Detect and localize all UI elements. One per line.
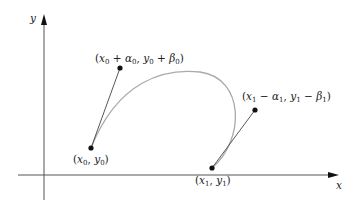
label-c1: (x1 − α1, y1 − β1) [242,90,331,104]
point-c1 [252,107,257,112]
tangent-line-start [91,68,120,148]
hermite-curve [91,71,235,168]
point-p0 [88,145,93,150]
tangent-line-end [212,110,255,168]
y-axis-label: y [29,12,37,24]
y-axis-arrow-icon [41,14,47,25]
label-p0: (x0, y0) [73,153,109,167]
x-axis-arrow-icon [328,172,339,178]
point-c0 [117,65,122,70]
hermite-curve-diagram: y x (x0, y0) (x0 + α0, y0 + β0) (x1, y1)… [0,0,358,207]
label-c0: (x0 + α0, y0 + β0) [95,52,184,66]
y-axis [41,14,47,200]
x-axis-label: x [336,179,342,191]
label-p1: (x1, y1) [195,174,231,188]
point-p1 [209,165,214,170]
x-axis [18,172,339,178]
